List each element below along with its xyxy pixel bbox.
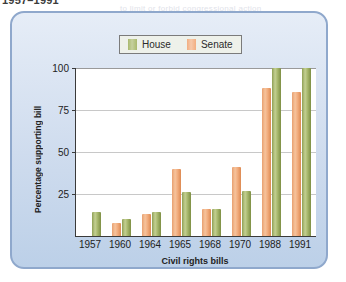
bar-house-1957[interactable] (92, 212, 101, 236)
x-tick-label-1970: 1970 (225, 239, 255, 250)
x-tick-label-1964: 1964 (135, 239, 165, 250)
legend-label-senate: Senate (201, 39, 233, 50)
bar-group-1968 (202, 68, 221, 236)
chart-panel: House Senate Percentage supporting bill … (10, 11, 328, 269)
y-tick-label-75: 75 (58, 105, 69, 116)
x-tick-label-1968: 1968 (195, 239, 225, 250)
bar-senate-1988[interactable] (262, 88, 271, 236)
plot-area (75, 68, 316, 237)
bar-house-1970[interactable] (242, 191, 251, 236)
legend-item-senate[interactable]: Senate (187, 39, 233, 50)
x-axis-tick-labels: 19571960196419651968197019881991 (75, 239, 315, 250)
bar-group-1960 (112, 68, 131, 236)
bar-house-1964[interactable] (152, 212, 161, 236)
y-tick-label-50: 50 (58, 147, 69, 158)
legend-swatch-house (128, 39, 137, 50)
bar-house-1988[interactable] (272, 68, 281, 236)
x-tick-label-1960: 1960 (105, 239, 135, 250)
bar-groups (76, 68, 316, 236)
chart-legend: House Senate (119, 35, 242, 54)
plot-area-wrapper: Percentage supporting bill 255075100 195… (35, 61, 320, 261)
legend-label-house: House (142, 39, 171, 50)
bar-group-1988 (262, 68, 281, 236)
legend-swatch-senate (187, 39, 196, 50)
bar-group-1991 (292, 68, 311, 236)
bar-group-1964 (142, 68, 161, 236)
bar-house-1991[interactable] (302, 68, 311, 236)
bar-senate-1968[interactable] (202, 209, 211, 236)
bar-group-1970 (232, 68, 251, 236)
y-tick-label-25: 25 (58, 189, 69, 200)
bar-senate-1970[interactable] (232, 167, 241, 236)
bar-house-1968[interactable] (212, 209, 221, 236)
x-tick-label-1957: 1957 (75, 239, 105, 250)
x-axis-title: Civil rights bills (75, 256, 315, 266)
figure-caption-top: 1957–1991 (2, 0, 59, 6)
bar-senate-1964[interactable] (142, 214, 151, 236)
bar-house-1960[interactable] (122, 219, 131, 236)
legend-item-house[interactable]: House (128, 39, 171, 50)
x-tick-label-1965: 1965 (165, 239, 195, 250)
y-axis-title: Percentage supporting bill (31, 89, 45, 229)
bar-senate-1965[interactable] (172, 169, 181, 236)
bar-group-1965 (172, 68, 191, 236)
x-tick-label-1988: 1988 (255, 239, 285, 250)
bar-house-1965[interactable] (182, 192, 191, 236)
bar-senate-1960[interactable] (112, 223, 121, 236)
y-tick-label-100: 100 (52, 63, 69, 74)
figure-page: 1957–1991 to limit or forbid congression… (0, 0, 346, 282)
bar-senate-1991[interactable] (292, 92, 301, 236)
x-tick-label-1991: 1991 (285, 239, 315, 250)
bar-group-1957 (82, 68, 101, 236)
y-axis-tick-labels: 255075100 (47, 61, 73, 236)
